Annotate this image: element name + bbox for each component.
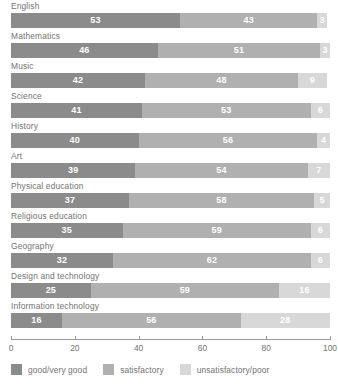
bar-segment: 53	[11, 13, 180, 28]
bar-segment-value: 51	[234, 46, 244, 55]
bar-segment-value: 53	[90, 16, 100, 25]
bar-row: Art39547	[0, 150, 338, 180]
bar-row: Design and technology255916	[0, 270, 338, 300]
category-label: History	[11, 120, 38, 133]
bar-row: Science41536	[0, 90, 338, 120]
bar-row: Information technology165628	[0, 300, 338, 330]
bar-track: 42489	[11, 73, 330, 88]
category-label: Geography	[11, 240, 54, 253]
bar-segment-value: 6	[318, 256, 323, 265]
bar-segment: 42	[11, 73, 145, 88]
bar-track: 53433	[11, 13, 330, 28]
x-axis-tick	[266, 336, 267, 340]
bar-segment-value: 39	[68, 166, 78, 175]
bar-segment: 46	[11, 43, 158, 58]
bar-row: English53433	[0, 0, 338, 30]
bar-segment-value: 25	[46, 286, 56, 295]
category-label: Physical education	[11, 180, 84, 193]
category-label: Religious education	[11, 210, 87, 223]
bar-segment-value: 48	[216, 76, 226, 85]
bar-segment: 9	[298, 73, 327, 88]
bar-segment-value: 46	[79, 46, 89, 55]
bar-segment-value: 37	[65, 196, 75, 205]
category-label: Design and technology	[11, 270, 99, 283]
legend-item: satisfactory	[103, 364, 164, 375]
x-axis-tick	[139, 336, 140, 340]
bar-segment-value: 62	[207, 256, 217, 265]
x-axis-tick-label: 20	[70, 343, 79, 353]
legend-swatch-icon	[180, 364, 191, 375]
bar-segment: 41	[11, 103, 142, 118]
x-axis-line	[11, 339, 330, 340]
legend-item: good/very good	[11, 364, 87, 375]
x-axis-tick	[75, 336, 76, 340]
x-axis-tick-label: 60	[198, 343, 207, 353]
category-label: English	[11, 0, 40, 13]
bar-segment: 32	[11, 253, 113, 268]
bar-segment: 3	[317, 13, 327, 28]
bar-segment-value: 6	[318, 106, 323, 115]
legend-swatch-icon	[103, 364, 114, 375]
bar-segment-value: 7	[316, 166, 321, 175]
bar-track: 37585	[11, 193, 330, 208]
bar-segment: 54	[135, 163, 307, 178]
x-axis-tick	[11, 336, 12, 340]
bar-row: Music42489	[0, 60, 338, 90]
bar-segment-value: 42	[73, 76, 83, 85]
bar-segment-value: 16	[31, 316, 41, 325]
bar-segment: 6	[311, 223, 330, 238]
bar-segment: 5	[314, 193, 330, 208]
bar-segment: 43	[180, 13, 317, 28]
bar-segment: 28	[241, 313, 330, 328]
bar-segment: 48	[145, 73, 298, 88]
bar-segment: 56	[62, 313, 241, 328]
bar-row: History40564	[0, 120, 338, 150]
bar-segment-value: 58	[216, 196, 226, 205]
bar-segment: 16	[11, 313, 62, 328]
bar-segment-value: 4	[321, 136, 326, 145]
bar-segment: 4	[317, 133, 330, 148]
stacked-bar-chart: English53433Mathematics46513Music42489Sc…	[0, 0, 338, 388]
bar-segment: 39	[11, 163, 135, 178]
bar-segment-value: 59	[180, 286, 190, 295]
legend-label: satisfactory	[120, 365, 164, 375]
bar-segment: 53	[142, 103, 311, 118]
bar-segment-value: 56	[223, 136, 233, 145]
bar-segment: 6	[311, 103, 330, 118]
bar-segment-value: 5	[319, 196, 324, 205]
bar-segment: 56	[139, 133, 318, 148]
bar-segment: 58	[129, 193, 314, 208]
bar-track: 46513	[11, 43, 330, 58]
bar-segment: 7	[308, 163, 330, 178]
category-label: Mathematics	[11, 30, 60, 43]
bar-track: 35596	[11, 223, 330, 238]
bar-track: 32626	[11, 253, 330, 268]
bar-track: 41536	[11, 103, 330, 118]
bar-segment-value: 54	[216, 166, 226, 175]
bar-segment: 62	[113, 253, 311, 268]
bar-segment-value: 56	[146, 316, 156, 325]
bar-segment-value: 16	[299, 286, 309, 295]
bar-segment-value: 53	[221, 106, 231, 115]
x-axis-tick	[330, 336, 331, 340]
bar-segment-value: 40	[70, 136, 80, 145]
bar-segment-value: 6	[318, 226, 323, 235]
category-label: Information technology	[11, 300, 99, 313]
bar-segment-value: 41	[71, 106, 81, 115]
bar-segment-value: 9	[310, 76, 315, 85]
bar-track: 39547	[11, 163, 330, 178]
bar-row: Mathematics46513	[0, 30, 338, 60]
bar-row: Religious education35596	[0, 210, 338, 240]
bar-track: 165628	[11, 313, 330, 328]
bar-segment: 16	[279, 283, 330, 298]
bar-segment-value: 59	[212, 226, 222, 235]
bar-segment: 3	[320, 43, 330, 58]
bar-row: Physical education37585	[0, 180, 338, 210]
legend-label: unsatisfactory/poor	[197, 365, 270, 375]
category-label: Science	[11, 90, 42, 103]
chart-legend: good/very goodsatisfactoryunsatisfactory…	[11, 364, 285, 375]
bar-row: Geography32626	[0, 240, 338, 270]
bar-segment: 6	[311, 253, 330, 268]
x-axis-tick	[202, 336, 203, 340]
category-label: Music	[11, 60, 34, 73]
